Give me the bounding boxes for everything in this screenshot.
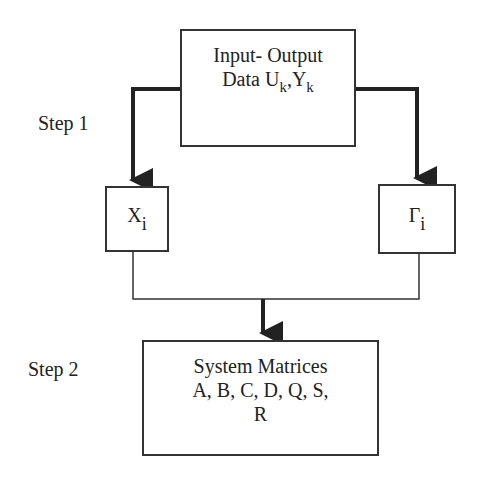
line-from-state-sequence bbox=[133, 251, 263, 299]
system-matrices-list-cont: R bbox=[254, 402, 267, 426]
system-matrices-list: A, B, C, D, Q, S, bbox=[192, 378, 328, 402]
state-sequence-symbol: Xi bbox=[127, 203, 146, 236]
system-matrices-title: System Matrices bbox=[194, 354, 328, 378]
system-matrices-box: System Matrices A, B, C, D, Q, S, R bbox=[142, 340, 379, 456]
step-2-label: Step 2 bbox=[28, 358, 79, 381]
state-sequence-box: Xi bbox=[105, 186, 169, 252]
observability-matrix-box: Γi bbox=[378, 184, 456, 254]
arrow-to-state-sequence bbox=[133, 89, 181, 180]
observability-matrix-symbol: Γi bbox=[409, 203, 426, 236]
input-output-data-box: Input- Output Data Uk,Yk bbox=[180, 29, 356, 147]
line-from-observability-matrix bbox=[263, 253, 419, 299]
input-output-title: Input- Output bbox=[213, 43, 322, 67]
step-1-label: Step 1 bbox=[38, 112, 89, 135]
input-output-data-label: Data Uk,Yk bbox=[222, 67, 314, 99]
arrow-to-observability-matrix bbox=[354, 89, 417, 178]
